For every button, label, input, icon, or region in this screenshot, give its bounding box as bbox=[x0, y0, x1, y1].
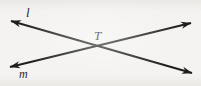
line-label-m: m bbox=[19, 68, 28, 80]
geometry-figure: l T m bbox=[0, 0, 201, 86]
geometry-canvas bbox=[0, 0, 201, 86]
line-label-l: l bbox=[26, 6, 30, 19]
point-label-t: T bbox=[94, 29, 101, 42]
